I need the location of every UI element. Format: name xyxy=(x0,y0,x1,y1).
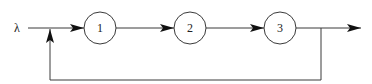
node-2-label: 2 xyxy=(187,21,193,35)
node-1-label: 1 xyxy=(97,21,103,35)
queueing-diagram: λ 1 2 3 xyxy=(0,0,372,84)
input-rate-label: λ xyxy=(14,21,20,35)
node-3-label: 3 xyxy=(277,21,283,35)
node-3: 3 xyxy=(264,12,296,44)
node-2: 2 xyxy=(174,12,206,44)
node-1: 1 xyxy=(84,12,116,44)
